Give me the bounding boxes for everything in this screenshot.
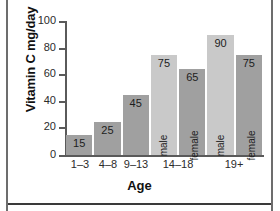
bar-value-label: 65 — [179, 71, 205, 83]
y-tick-80: 80 — [59, 48, 66, 50]
bar-age-9-13: 45 — [123, 95, 149, 155]
x-tick-label-14-18: 14–18 — [163, 158, 194, 170]
bar-value-label: 25 — [94, 124, 120, 136]
bar-value-label: 90 — [207, 37, 233, 49]
bar-sex-label: male — [207, 140, 233, 151]
x-axis-title: Age — [8, 178, 271, 193]
bar-sex-label: female — [236, 140, 262, 151]
x-tick-label-1-3: 1–3 — [71, 158, 89, 170]
bar-age-19plus-male: 90 male — [207, 35, 233, 155]
bar-age-4-8: 25 — [94, 122, 120, 155]
y-tick-20: 20 — [59, 127, 66, 129]
bar-age-19plus-female: 75 female — [236, 55, 262, 155]
y-axis-title: Vitamin C mg/day — [23, 0, 38, 120]
bar-sex-label: male — [151, 140, 177, 151]
y-tick-0: 0 — [59, 155, 66, 157]
y-tick-100: 100 — [59, 21, 66, 23]
bar-age-14-18-female: 65 female — [179, 69, 205, 155]
bar-value-label: 45 — [123, 97, 149, 109]
bar-value-label: 75 — [151, 57, 177, 69]
figure-right-border — [271, 0, 273, 211]
bar-value-label: 15 — [66, 137, 92, 149]
x-tick-labels: 1–3 4–8 9–13 14–18 19+ — [66, 158, 262, 172]
vitamin-c-bar-chart: Vitamin C mg/day 100 80 60 40 20 0 15 — [0, 0, 280, 211]
x-tick-label-19plus: 19+ — [225, 158, 244, 170]
bar-age-1-3: 15 — [66, 135, 92, 155]
plot-region: 15 25 45 75 male 65 female 90 — [66, 22, 262, 155]
bar-series: 15 25 45 75 male 65 female 90 — [66, 22, 262, 155]
bar-value-label: 75 — [236, 57, 262, 69]
y-tick-60: 60 — [59, 74, 66, 76]
bar-age-14-18-male: 75 male — [151, 55, 177, 155]
x-tick-label-9-13: 9–13 — [124, 158, 148, 170]
figure-bottom-rule — [8, 203, 271, 205]
x-tick-label-4-8: 4–8 — [99, 158, 117, 170]
chart-area: Vitamin C mg/day 100 80 60 40 20 0 15 — [8, 0, 271, 200]
y-tick-40: 40 — [59, 101, 66, 103]
bar-sex-label: female — [179, 140, 205, 151]
